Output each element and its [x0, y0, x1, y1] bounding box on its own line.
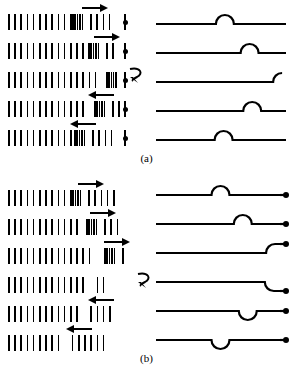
tick-mark — [106, 248, 108, 264]
tick-mark — [114, 248, 116, 264]
transverse-string-diagram — [152, 296, 290, 324]
tick-mark — [84, 130, 86, 146]
tick-mark — [122, 248, 124, 264]
tick-mark — [20, 130, 22, 146]
free-end-dot — [283, 221, 289, 227]
string-pulse-path — [156, 102, 286, 111]
tick-mark — [33, 277, 35, 293]
tick-mark — [58, 72, 60, 88]
tick-mark — [104, 101, 106, 117]
tick-mark — [51, 101, 53, 117]
tick-mark — [70, 248, 72, 264]
tick-mark — [33, 14, 35, 30]
tick-mark — [64, 72, 66, 88]
tick-mark — [77, 14, 79, 30]
tick-mark — [39, 43, 41, 59]
arrow-shaft — [94, 36, 113, 38]
tick-mark — [58, 306, 60, 322]
tick-mark — [98, 130, 100, 146]
tick-mark — [39, 190, 41, 206]
tick-mark — [14, 101, 16, 117]
tick-mark — [111, 130, 113, 146]
tick-mark — [93, 43, 95, 59]
tick-mark — [39, 277, 41, 293]
tick-mark — [109, 248, 111, 264]
tick-mark — [20, 248, 22, 264]
fixed-end-dot — [123, 20, 128, 25]
fixed-end-dot — [123, 49, 128, 54]
wave-row — [0, 236, 293, 266]
wave-row — [0, 118, 293, 148]
transverse-string-diagram — [152, 325, 290, 353]
tick-mark — [76, 101, 78, 117]
transverse-string-diagram — [152, 238, 290, 266]
tick-mark — [64, 219, 66, 235]
tick-mark — [39, 101, 41, 117]
tick-mark — [14, 14, 16, 30]
tick-mark — [51, 190, 53, 206]
tick-mark — [27, 101, 29, 117]
wave-row — [0, 323, 293, 353]
tick-mark — [27, 43, 29, 59]
tick-mark — [39, 306, 41, 322]
direction-arrow-left — [70, 120, 96, 128]
free-end-dot — [283, 337, 289, 343]
tick-mark — [64, 101, 66, 117]
tick-mark — [64, 14, 66, 30]
tick-mark — [8, 306, 10, 322]
tick-mark — [89, 248, 91, 264]
tick-mark — [104, 248, 106, 264]
tick-mark — [27, 277, 29, 293]
tick-mark — [8, 72, 10, 88]
tick-mark — [105, 130, 107, 146]
tick-mark — [96, 219, 98, 235]
tick-mark — [33, 306, 35, 322]
tick-mark — [101, 190, 103, 206]
string-pulse-path — [156, 44, 286, 53]
arrow-head — [96, 180, 104, 188]
tick-mark — [103, 306, 105, 322]
tick-mark — [79, 130, 81, 146]
tick-mark — [45, 277, 47, 293]
string-pulse-path — [156, 311, 280, 320]
tick-mark — [8, 248, 10, 264]
tick-mark — [90, 43, 92, 59]
tick-mark — [27, 306, 29, 322]
tick-mark — [82, 248, 84, 264]
wave-row — [0, 207, 293, 237]
tick-mark — [45, 14, 47, 30]
tick-mark — [76, 306, 78, 322]
tick-mark — [51, 248, 53, 264]
tick-mark — [39, 219, 41, 235]
arrow-head — [112, 33, 120, 41]
tick-mark — [76, 43, 78, 59]
tick-mark — [99, 101, 101, 117]
transverse-string-diagram — [152, 180, 290, 208]
tick-mark — [74, 130, 76, 146]
tick-mark — [111, 248, 113, 264]
arrow-shaft — [78, 183, 97, 185]
longitudinal-tick-row — [8, 306, 128, 322]
tick-mark — [118, 101, 120, 117]
tick-mark — [14, 43, 16, 59]
tick-mark — [27, 130, 29, 146]
tick-mark — [20, 72, 22, 88]
arrow-shaft — [104, 241, 123, 243]
tick-mark — [20, 306, 22, 322]
tick-mark — [96, 101, 98, 117]
tick-mark — [45, 335, 47, 351]
tick-mark — [76, 130, 78, 146]
tick-mark — [74, 14, 76, 30]
transverse-string-diagram — [152, 209, 290, 237]
arrow-head — [66, 325, 74, 333]
arrow-shaft — [73, 328, 92, 330]
longitudinal-tick-row — [8, 248, 128, 264]
panel-b-caption: (b) — [0, 352, 293, 364]
tick-mark — [109, 306, 111, 322]
tick-mark — [89, 72, 91, 88]
tick-mark — [70, 101, 72, 117]
tick-mark — [98, 43, 100, 59]
tick-mark — [64, 190, 66, 206]
wave-row — [0, 89, 293, 119]
tick-mark — [14, 335, 16, 351]
